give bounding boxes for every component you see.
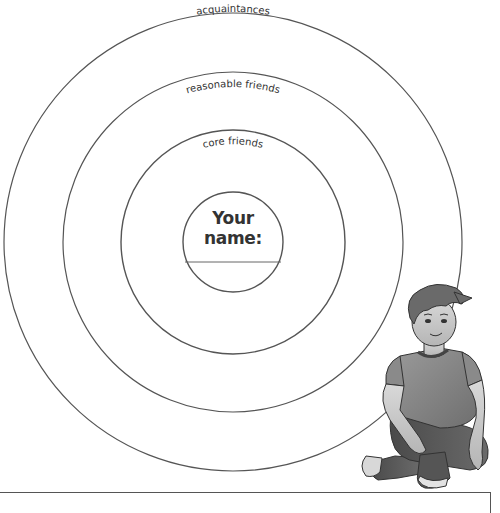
label-reasonable-friends: reasonable friends — [185, 78, 282, 95]
notes-box[interactable] — [0, 492, 491, 513]
boy-illustration — [362, 284, 488, 488]
label-acquaintances: acquaintances — [195, 3, 270, 17]
left-shoe-icon — [362, 456, 382, 477]
label-core-friends: core friends — [201, 135, 264, 150]
your-name-label: Your name: — [183, 208, 283, 248]
